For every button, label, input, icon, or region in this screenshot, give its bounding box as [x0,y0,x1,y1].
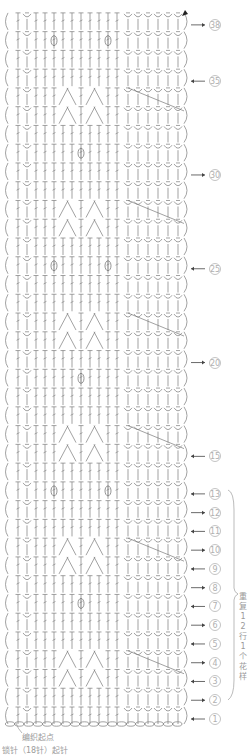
row-number-5: 5 [209,638,221,650]
row-number-8: 8 [209,582,221,594]
row-number-35: 35 [209,75,221,87]
row-number-11: 11 [209,525,221,537]
row-number-4: 4 [209,657,221,669]
repeat-note: 重复12行1个花样 [238,592,248,682]
row-number-12: 12 [209,507,221,519]
row-number-1: 1 [209,713,221,725]
row-number-9: 9 [209,563,221,575]
row-number-13: 13 [209,488,221,500]
row-number-25: 25 [209,263,221,275]
row-number-10: 10 [209,544,221,556]
row-number-30: 30 [209,169,221,181]
foundation-chain-label: 锁针（18针）起针 [2,744,68,755]
start-point-label: 编织起点 [22,731,54,742]
row-number-38: 38 [209,19,221,31]
row-number-15: 15 [209,450,221,462]
row-number-20: 20 [209,357,221,369]
